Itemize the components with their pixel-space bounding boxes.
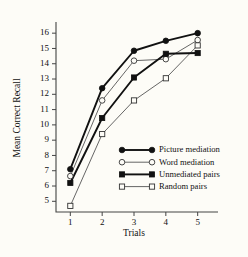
y-tick-label: 12: [40, 88, 49, 98]
y-tick-label: 16: [40, 27, 50, 37]
y-tick-label: 6: [45, 180, 50, 190]
legend-marker: [119, 147, 125, 153]
legend-marker: [119, 184, 124, 189]
data-point-random-pairs: [163, 76, 168, 81]
y-tick-label: 11: [40, 104, 49, 114]
data-point-picture-mediation: [68, 166, 74, 172]
y-tick-label: 15: [40, 43, 50, 53]
legend-label: Unmediated pairs: [159, 169, 221, 179]
data-point-picture-mediation: [163, 38, 169, 44]
legend-marker: [149, 172, 154, 177]
data-point-picture-mediation: [131, 48, 137, 54]
x-tick-label: 2: [100, 217, 105, 227]
y-tick-label: 7: [45, 165, 50, 175]
legend-marker: [119, 172, 124, 177]
data-point-word-mediation: [68, 173, 74, 179]
data-point-picture-mediation: [99, 85, 105, 91]
y-tick-label: 5: [45, 195, 50, 205]
data-point-word-mediation: [131, 58, 137, 64]
data-point-random-pairs: [131, 98, 136, 103]
legend-marker: [149, 147, 155, 153]
legend-marker: [149, 184, 154, 189]
legend-label: Picture mediation: [159, 144, 221, 154]
data-point-unmediated-pairs: [131, 75, 136, 80]
data-point-unmediated-pairs: [195, 50, 200, 55]
data-point-word-mediation: [163, 56, 169, 62]
y-tick-label: 14: [40, 58, 50, 68]
legend-marker: [149, 159, 155, 165]
legend-label: Word mediation: [159, 157, 215, 167]
y-tick-label: 13: [40, 73, 50, 83]
y-tick-label: 8: [45, 150, 50, 160]
x-tick-label: 4: [164, 217, 169, 227]
legend-label: Random pairs: [159, 181, 208, 191]
data-point-picture-mediation: [195, 30, 201, 36]
y-tick-label: 9: [45, 134, 50, 144]
data-point-unmediated-pairs: [163, 51, 168, 56]
x-axis-title: Trials: [123, 228, 145, 238]
data-point-unmediated-pairs: [68, 180, 73, 185]
data-point-random-pairs: [100, 131, 105, 136]
y-tick-label: 10: [40, 119, 50, 129]
x-tick-label: 5: [195, 217, 200, 227]
data-point-word-mediation: [195, 37, 201, 43]
data-point-random-pairs: [195, 43, 200, 48]
figure-container: 567891011121314151612345TrialsMean Corre…: [0, 0, 248, 257]
legend-marker: [119, 159, 125, 165]
data-point-random-pairs: [68, 203, 73, 208]
data-point-word-mediation: [99, 98, 105, 104]
x-tick-label: 3: [132, 217, 137, 227]
data-point-unmediated-pairs: [100, 115, 105, 120]
y-axis-title: Mean Correct Recall: [12, 78, 22, 157]
x-tick-label: 1: [68, 217, 73, 227]
recall-line-chart: 567891011121314151612345TrialsMean Corre…: [0, 0, 248, 257]
